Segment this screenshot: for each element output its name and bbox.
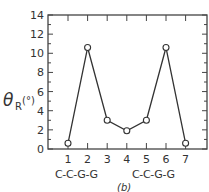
y-axis-ticks: 02468101214 xyxy=(30,9,207,156)
svg-text:10: 10 xyxy=(30,47,44,60)
svg-text:1: 1 xyxy=(65,153,72,166)
y-axis-label-unit: (°) xyxy=(22,95,35,106)
y-axis-label: θ xyxy=(3,90,14,110)
svg-text:0: 0 xyxy=(37,143,44,156)
svg-text:5: 5 xyxy=(143,153,150,166)
chart: 02468101214 1234567 θ R (°) C-C-G-G C-C-… xyxy=(0,0,209,192)
svg-text:12: 12 xyxy=(30,28,44,41)
svg-text:6: 6 xyxy=(163,153,170,166)
x-axis-ticks: 1234567 xyxy=(65,15,190,166)
svg-text:2: 2 xyxy=(37,124,44,137)
svg-text:3: 3 xyxy=(104,153,111,166)
sequence-label-right: C-C-G-G xyxy=(132,168,175,181)
svg-text:6: 6 xyxy=(37,86,44,99)
svg-text:8: 8 xyxy=(37,66,44,79)
panel-label: (b) xyxy=(117,182,131,192)
svg-text:2: 2 xyxy=(84,153,91,166)
y-axis-label-sub: R xyxy=(15,101,22,112)
sequence-label-left: C-C-G-G xyxy=(55,168,98,181)
svg-text:4: 4 xyxy=(37,105,44,118)
data-markers xyxy=(65,45,189,147)
svg-text:14: 14 xyxy=(30,9,44,22)
svg-text:7: 7 xyxy=(182,153,189,166)
svg-text:4: 4 xyxy=(123,153,130,166)
